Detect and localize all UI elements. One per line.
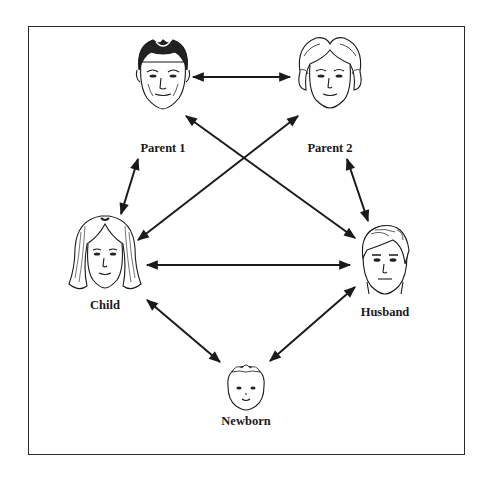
- edge-parent1-husband: [186, 116, 355, 238]
- node-label-parent2: Parent 2: [307, 141, 352, 156]
- node-label-newborn: Newborn: [221, 414, 270, 429]
- node-label-child: Child: [90, 298, 120, 313]
- child-face-icon: [69, 216, 141, 289]
- edge-parent2-husband: [347, 159, 368, 221]
- newborn-face-icon: [228, 365, 264, 410]
- edge-parent2-child: [138, 116, 298, 240]
- edge-parent1-child: [121, 159, 138, 214]
- husband-face-icon: [362, 226, 409, 295]
- node-label-husband: Husband: [361, 305, 410, 320]
- parent1-face-icon: [136, 40, 189, 109]
- edge-husband-newborn: [270, 287, 355, 361]
- edges: [121, 77, 368, 362]
- edge-child-newborn: [147, 300, 220, 362]
- node-label-parent1: Parent 1: [140, 141, 185, 156]
- relationship-diagram: [0, 0, 491, 480]
- parent2-face-icon: [299, 38, 361, 108]
